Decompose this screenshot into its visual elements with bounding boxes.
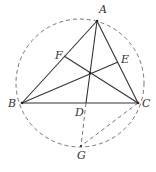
point-a-dot — [96, 20, 99, 23]
segment-cg — [81, 103, 138, 146]
point-b-dot — [21, 102, 24, 105]
label-e: E — [120, 53, 129, 66]
side-ab — [22, 21, 97, 103]
label-f: F — [54, 49, 63, 62]
altitude-ad — [86, 21, 97, 103]
point-g-dot — [80, 145, 82, 147]
label-g: G — [77, 149, 86, 162]
orthocenter-dot — [89, 72, 91, 74]
label-d: D — [74, 106, 84, 119]
circumcircle — [16, 19, 144, 147]
altitude-be — [22, 62, 118, 103]
label-a: A — [98, 3, 107, 16]
point-c-dot — [137, 102, 140, 105]
geometry-diagram: A B C D E F G — [0, 0, 156, 172]
label-c: C — [142, 97, 151, 110]
label-b: B — [7, 97, 16, 110]
